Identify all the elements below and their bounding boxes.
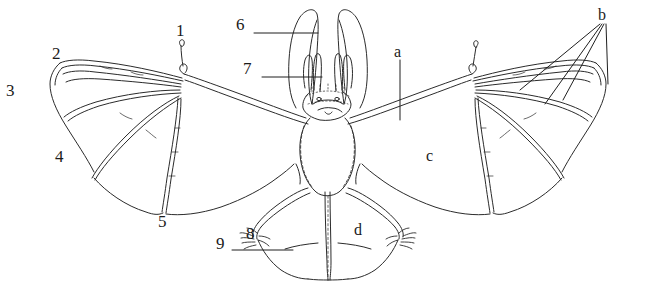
label-9: 9 — [216, 235, 225, 252]
label-5: 5 — [158, 213, 167, 230]
label-3: 3 — [6, 82, 15, 99]
label-2: 2 — [52, 45, 61, 62]
left-tragus — [304, 54, 322, 91]
left-wing — [50, 40, 308, 215]
right-tragus — [335, 54, 353, 91]
label-6: 6 — [236, 16, 245, 33]
label-7: 7 — [243, 60, 252, 77]
leader-b-fan — [520, 24, 608, 104]
right-wing — [348, 41, 606, 215]
label-8: 8 — [246, 225, 255, 242]
label-a: a — [394, 44, 401, 60]
bat-line-drawing — [0, 0, 657, 281]
leader-lines — [232, 24, 608, 250]
label-c: c — [426, 148, 433, 164]
label-4: 4 — [55, 148, 64, 165]
label-1: 1 — [176, 22, 185, 39]
torso-outline — [300, 118, 355, 196]
bat-anatomy-figure: 1 2 3 4 5 6 7 8 9 a b c d — [0, 0, 657, 281]
left-hindleg — [253, 188, 310, 239]
right-foot-claws — [386, 228, 416, 249]
label-d: d — [354, 222, 362, 238]
label-b: b — [598, 7, 606, 23]
left-foot-claws — [240, 228, 270, 249]
tail — [325, 192, 331, 280]
